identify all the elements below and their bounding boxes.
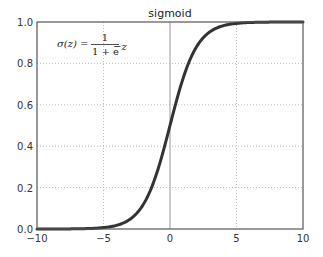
sigmoid-chart: sigmoid −10−50510 0.00.20.40.60.81.0 σ(z… (0, 0, 323, 257)
x-tick-label: −5 (96, 233, 111, 244)
y-tick-label: 1.0 (17, 17, 33, 28)
x-tick-label: 0 (167, 233, 173, 244)
y-tick-label: 0.8 (17, 58, 33, 69)
formula-numerator: 1 (102, 32, 108, 43)
y-tick-label: 0.2 (17, 183, 33, 194)
chart-title: sigmoid (148, 7, 191, 20)
y-tick-label: 0.6 (17, 100, 33, 111)
formula-lhs: σ(z) = (57, 38, 88, 49)
y-tick-label: 0.4 (17, 141, 33, 152)
y-axis-ticks: 0.00.20.40.60.81.0 (17, 17, 33, 235)
y-tick-label: 0.0 (17, 224, 33, 235)
x-tick-label: 10 (297, 233, 310, 244)
formula-exponent: −z (113, 41, 127, 52)
x-tick-label: 5 (233, 233, 239, 244)
x-axis-ticks: −10−50510 (26, 233, 309, 244)
